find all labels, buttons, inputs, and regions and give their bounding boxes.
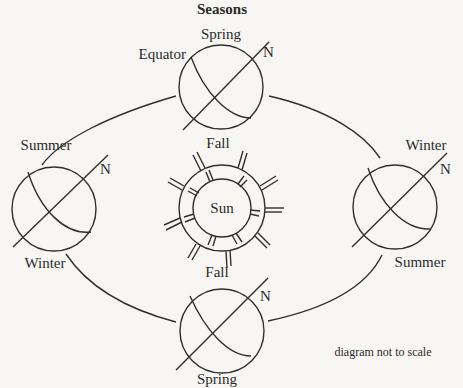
- label-fall-bottom: Fall: [205, 264, 228, 280]
- label-fall-center: Fall: [206, 135, 229, 151]
- label-summer-left: Summer: [21, 137, 72, 153]
- label-summer-right: Summer: [395, 254, 446, 270]
- label-n-right: N: [440, 161, 451, 177]
- axis-line: [352, 153, 447, 247]
- label-equator: Equator: [139, 46, 186, 62]
- equator-line: [191, 57, 251, 118]
- axis-line: [183, 42, 269, 130]
- scale-note: diagram not to scale: [335, 345, 432, 359]
- sun: Sun: [164, 151, 284, 268]
- label-winter-right: Winter: [405, 137, 446, 153]
- earth-top: [179, 42, 269, 130]
- axis-line: [176, 278, 268, 370]
- label-n-bottom: N: [260, 288, 271, 304]
- label-winter-left: Winter: [24, 255, 65, 271]
- earth-right: [352, 153, 447, 249]
- earth-left: [12, 155, 108, 251]
- sun-label: Sun: [210, 200, 234, 216]
- equator-line: [368, 168, 430, 229]
- label-spring-top: Spring: [201, 26, 242, 42]
- diagram-title: Seasons: [197, 1, 247, 17]
- label-n-left: N: [100, 161, 111, 177]
- earth-bottom: [176, 278, 268, 373]
- label-spring-bottom: Spring: [197, 371, 238, 387]
- label-n-top: N: [263, 44, 274, 60]
- axis-line: [13, 155, 108, 247]
- seasons-diagram: Seasons Spring Equator N Summer Winter N…: [0, 0, 463, 388]
